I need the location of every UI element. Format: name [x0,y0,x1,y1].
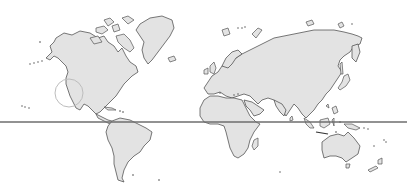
island-arctic-dot [237,27,238,28]
island-new-zealand-south [368,166,378,172]
island-arctic-1 [96,26,108,34]
island-pacific [385,141,386,142]
island-cuba [104,107,116,110]
island-baffin [116,34,134,52]
island-pacific [279,171,280,172]
island-great-britain [210,62,216,74]
island-taiwan [326,104,329,108]
island-arctic-dot [241,27,242,28]
island-sri-lanka [290,116,293,121]
landmass-greenland [136,16,174,64]
island-svalbard [222,28,230,36]
island-pacific [383,139,384,140]
island-arctic-dot [244,26,245,27]
world-map [0,0,407,191]
island-pacific [367,128,368,129]
island-aleutian [41,60,42,61]
island-pacific [363,127,364,128]
island-alaska [39,41,41,43]
island-south-georgia [158,179,160,181]
island-novaya-zemlya [252,28,262,38]
island-pacific [373,145,374,146]
landmass-kamchatka [352,44,360,62]
island-new-siberian [338,22,344,28]
island-mediterranean [237,93,238,94]
island-caribbean [122,111,124,113]
island-new-zealand-north [378,158,382,164]
island-sumatra [304,118,314,128]
island-hawaii [24,106,25,107]
landmass-south-america [106,118,152,182]
island-aleutian [29,63,30,64]
island-aleutian [37,61,38,62]
island-hawaii [28,107,29,108]
island-borneo [320,118,330,128]
island-ireland [204,68,208,74]
island-mediterranean [219,92,220,93]
island-indonesia [335,131,337,133]
island-severnaya [306,20,314,26]
island-arctic-4 [112,24,120,32]
island-caribbean [119,110,121,112]
island-iceland [168,56,176,62]
island-arctic-dot [351,23,352,24]
island-arctic-5 [122,16,134,24]
island-tasmania [346,164,350,168]
island-mediterranean [233,94,234,95]
island-japan [338,74,350,90]
island-new-guinea [344,124,360,130]
island-arctic-2 [104,18,114,26]
island-java [316,132,328,134]
island-falklands [132,174,134,176]
landmass-australia [322,132,360,162]
island-hawaii [21,105,22,106]
island-philippines [332,106,338,114]
island-aleutian [33,62,34,63]
island-madagascar [252,138,258,150]
